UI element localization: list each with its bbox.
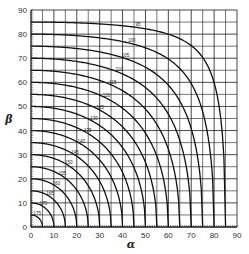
- y-tick-label: 70: [18, 54, 27, 63]
- y-tick-label: 10: [18, 199, 27, 208]
- curve-label: 155: [59, 171, 67, 176]
- x-tick-label: 80: [210, 231, 219, 240]
- curve-label: 165: [46, 191, 54, 196]
- curve-105: [31, 46, 203, 227]
- curve-155: [31, 167, 88, 227]
- curve-135: [31, 119, 134, 228]
- curve-label: 130: [90, 116, 98, 121]
- curve-label: 135: [84, 128, 92, 133]
- curve-label: 115: [109, 80, 117, 85]
- x-tick-label: 30: [95, 231, 104, 240]
- x-tick-label: 50: [141, 231, 150, 240]
- y-tick-label: 80: [18, 30, 27, 39]
- curve-label: 145: [71, 150, 79, 155]
- x-tick-label: 10: [49, 231, 58, 240]
- y-tick-label: 0: [23, 223, 28, 232]
- curve-label: 175: [34, 211, 42, 216]
- curve-label: 125: [96, 105, 104, 110]
- curve-label: 95: [135, 22, 141, 27]
- curve-label: 110: [116, 67, 124, 72]
- x-axis-ticks: 0102030405060708090: [29, 231, 242, 240]
- x-tick-label: 0: [29, 231, 34, 240]
- curve-label: 150: [65, 160, 73, 165]
- x-tick-label: 90: [233, 231, 242, 240]
- curve-label: 140: [78, 139, 86, 144]
- x-tick-label: 70: [187, 231, 196, 240]
- curve-label: 120: [103, 93, 111, 98]
- curve-175: [31, 215, 42, 227]
- y-tick-label: 20: [18, 175, 27, 184]
- y-tick-label: 90: [18, 6, 27, 15]
- curve-label: 100: [128, 38, 136, 43]
- curve-label: 105: [122, 53, 130, 58]
- x-axis-label: α: [127, 238, 136, 251]
- x-tick-label: 20: [72, 231, 81, 240]
- curve-125: [31, 94, 157, 227]
- y-tick-label: 30: [18, 151, 27, 160]
- contour-chart: 1751701651601551501451401351301251201151…: [0, 0, 249, 254]
- y-axis-ticks: 0102030405060708090: [18, 6, 27, 232]
- y-axis-label: β: [4, 113, 13, 126]
- y-tick-label: 40: [18, 127, 27, 136]
- y-tick-label: 50: [18, 102, 27, 111]
- curve-label: 170: [40, 201, 48, 206]
- x-tick-label: 60: [164, 231, 173, 240]
- y-tick-label: 60: [18, 78, 27, 87]
- curve-165: [31, 191, 65, 227]
- curve-label: 160: [52, 181, 60, 186]
